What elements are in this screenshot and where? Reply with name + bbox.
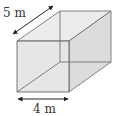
depth-label: 5 m [3, 6, 26, 20]
width-label: 4 m [33, 102, 56, 116]
cuboid-diagram: 5 m 4 m [0, 0, 119, 116]
cuboid [17, 11, 111, 92]
front-face [17, 41, 69, 92]
